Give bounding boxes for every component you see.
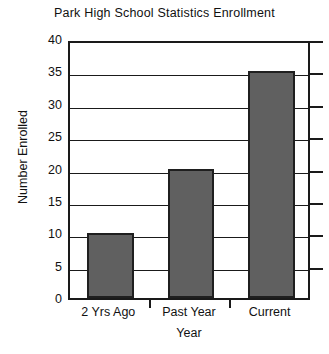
x-tick-label: Current: [229, 305, 310, 319]
chart-title: Park High School Statistics Enrollment: [0, 6, 329, 20]
right-axis-tick: [310, 138, 323, 140]
y-tick-label: 5: [20, 260, 62, 274]
right-axis-tick: [310, 41, 323, 43]
right-axis-tick: [310, 235, 323, 237]
bar-chart: Park High School Statistics Enrollment N…: [0, 0, 329, 354]
x-axis-label: Year: [68, 326, 310, 340]
y-tick-label: 30: [20, 98, 62, 112]
y-tick-label: 0: [20, 292, 62, 306]
x-tick-label: 2 Yrs Ago: [68, 305, 149, 319]
right-axis-tick: [310, 268, 323, 270]
bar: [168, 169, 215, 299]
bar: [87, 233, 134, 298]
x-tick-label: Past Year: [149, 305, 230, 319]
right-axis-tick: [310, 171, 323, 173]
right-axis-tick: [310, 203, 323, 205]
y-tick-label: 25: [20, 130, 62, 144]
y-tick-label: 15: [20, 195, 62, 209]
bar: [248, 71, 295, 298]
right-axis-tick: [310, 73, 323, 75]
y-tick-label: 10: [20, 227, 62, 241]
y-tick-label: 20: [20, 163, 62, 177]
y-tick-label: 40: [20, 33, 62, 47]
plot-area: [68, 41, 310, 300]
right-axis-tick: [310, 106, 323, 108]
y-tick-label: 35: [20, 65, 62, 79]
